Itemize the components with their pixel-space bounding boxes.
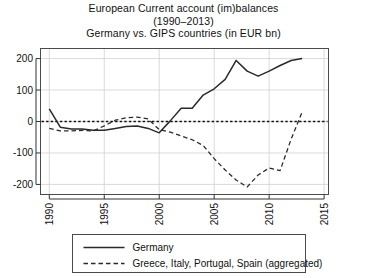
y-axis-tick-label: -100 xyxy=(13,147,33,158)
y-axis-tick-label: 100 xyxy=(16,85,33,96)
x-axis-tick-label: 1990 xyxy=(44,203,55,226)
x-axis-tick-label: 2000 xyxy=(154,203,165,226)
chart-plot-area: -200-1000100200199019952000200520102015G… xyxy=(0,0,367,278)
data-series-line-2 xyxy=(49,112,302,187)
data-series-group xyxy=(49,59,302,187)
x-axis-tick-label: 2015 xyxy=(319,203,330,226)
y-axis-tick-label: 0 xyxy=(27,116,33,127)
y-axis-tick-label: 200 xyxy=(16,53,33,64)
x-axis-tick-label: 2010 xyxy=(264,203,275,226)
legend-label-2: Greece, Italy, Portugal, Spain (aggregat… xyxy=(133,258,323,269)
x-axis-tick-label: 2005 xyxy=(209,203,220,226)
axis-ticks: -200-1000100200199019952000200520102015 xyxy=(13,53,330,225)
x-axis-tick-label: 1995 xyxy=(99,203,110,226)
chart-figure: European Current account (im)balances (1… xyxy=(0,0,367,278)
legend-label-1: Germany xyxy=(133,242,174,253)
y-axis-tick-label: -200 xyxy=(13,179,33,190)
chart-legend: GermanyGreece, Italy, Portugal, Spain (a… xyxy=(73,235,323,273)
